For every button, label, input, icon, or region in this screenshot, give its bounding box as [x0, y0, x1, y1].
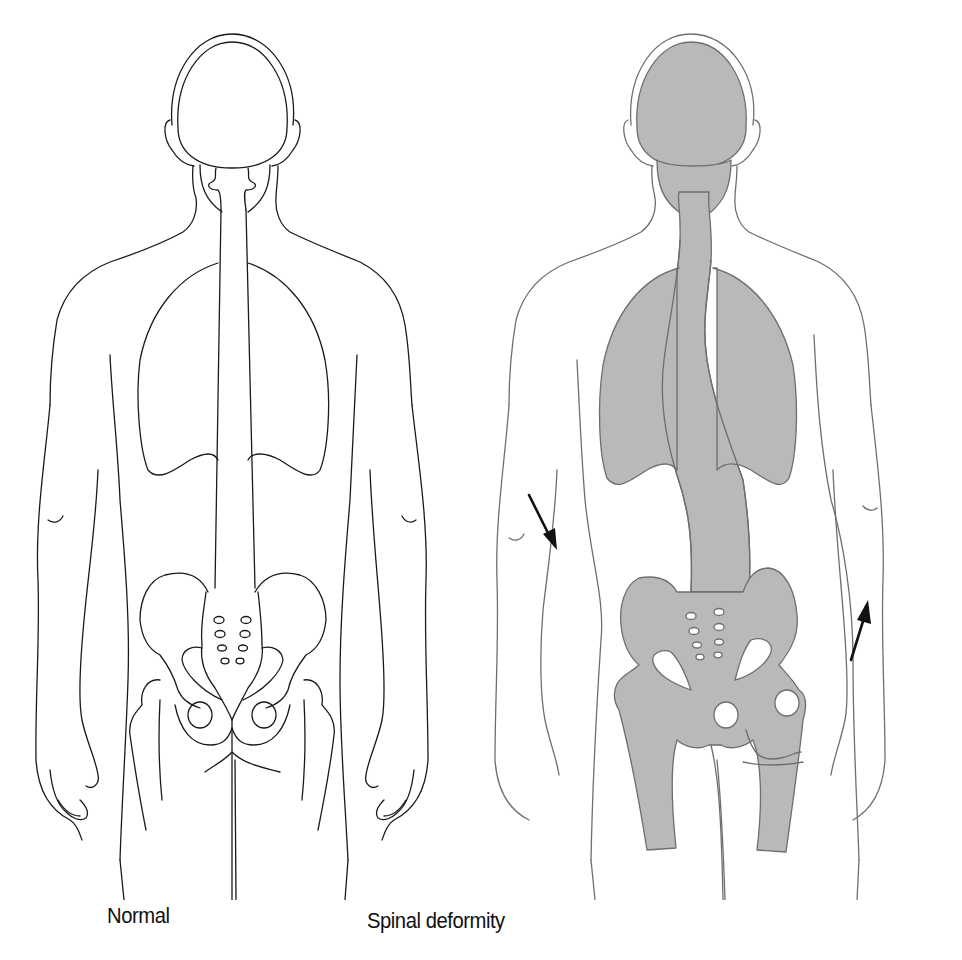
caption-spinal-deformity: Spinal deformity: [367, 908, 505, 934]
deformity-body-illustration: [481, 0, 962, 900]
normal-body-illustration: [0, 0, 480, 900]
spinal-deformity-figure: [481, 0, 962, 900]
normal-figure: [0, 0, 480, 900]
caption-normal: Normal: [107, 903, 169, 929]
